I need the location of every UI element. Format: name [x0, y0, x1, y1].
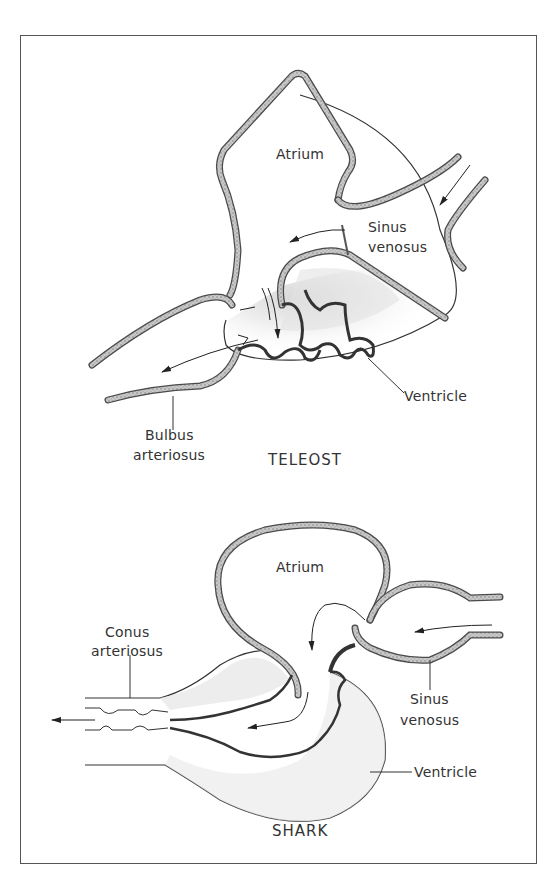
teleost-bulbus-label-2: arteriosus — [133, 446, 205, 465]
shark-sinus-label-1: Sinus — [410, 690, 449, 709]
teleost-sinus-label-2: venosus — [368, 238, 427, 257]
teleost-ventricle-label: Ventricle — [404, 387, 467, 406]
shark-conus-label-1: Conus — [105, 623, 149, 642]
shark-atrium-label: Atrium — [276, 558, 324, 577]
shark-sinus-label-2: venosus — [400, 711, 459, 730]
shark-conus-label-2: arteriosus — [91, 642, 163, 661]
teleost-title: TELEOST — [268, 451, 342, 470]
teleost-atrium-label: Atrium — [276, 145, 324, 164]
shark-title: SHARK — [272, 822, 328, 841]
teleost-bulbus-label-1: Bulbus — [145, 426, 194, 445]
teleost-flow-arrow-sinus — [290, 230, 345, 242]
heart-diagrams — [0, 0, 560, 884]
teleost-sinus-label-1: Sinus — [368, 218, 407, 237]
shark-ventricle-label: Ventricle — [414, 763, 477, 782]
shark-flow-arrow-in — [415, 625, 492, 632]
